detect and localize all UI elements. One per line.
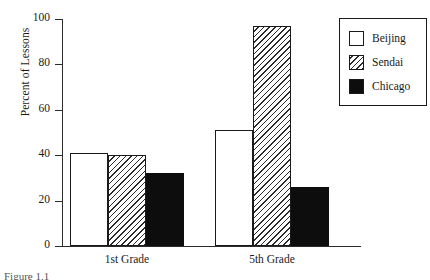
y-tick-label: 80 [8, 57, 50, 69]
y-tick-mark [55, 201, 62, 202]
bar-beijing-5th-grade [215, 130, 253, 246]
bar-group [215, 19, 329, 246]
legend-item-sendai: Sendai [349, 50, 426, 74]
x-category-label: 5th Grade [212, 253, 332, 265]
bar-sendai-5th-grade [253, 26, 291, 246]
figure-caption: Figure 1.1 [4, 272, 184, 280]
bar-chicago-5th-grade [291, 187, 329, 246]
legend-swatch-sendai [349, 55, 364, 70]
y-tick-mark [55, 246, 62, 247]
bar-chart: Percent of Lessons 020406080100 1st Grad… [0, 0, 430, 280]
y-tick-label: 20 [8, 194, 50, 206]
legend-label: Chicago [372, 80, 410, 92]
y-tick-mark [55, 64, 62, 65]
y-tick-label: 40 [8, 148, 50, 160]
legend-swatch-chicago [349, 79, 364, 94]
x-category-label: 1st Grade [67, 253, 187, 265]
plot-area [62, 19, 360, 246]
bar-sendai-1st-grade [108, 155, 146, 246]
y-tick-label: 60 [8, 103, 50, 115]
y-tick-label: 100 [8, 12, 50, 24]
legend-item-beijing: Beijing [349, 26, 426, 50]
legend-swatch-beijing [349, 31, 364, 46]
bar-beijing-1st-grade [70, 153, 108, 246]
y-tick-mark [55, 19, 62, 20]
y-tick-mark [55, 110, 62, 111]
bar-group [70, 19, 184, 246]
legend: BeijingSendaiChicago [339, 18, 427, 106]
legend-label: Sendai [372, 56, 403, 68]
legend-label: Beijing [372, 32, 406, 44]
y-tick-label: 0 [8, 239, 50, 251]
y-tick-mark [55, 155, 62, 156]
x-axis-line [62, 246, 361, 247]
legend-item-chicago: Chicago [349, 74, 426, 98]
bar-chicago-1st-grade [146, 173, 184, 246]
